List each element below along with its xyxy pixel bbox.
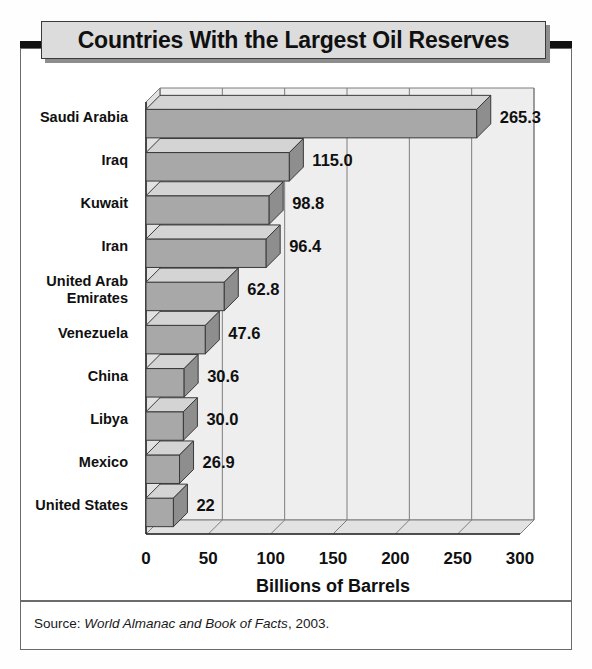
chart-title-bar: Countries With the Largest Oil Reserves bbox=[41, 21, 546, 59]
source-divider bbox=[20, 600, 572, 602]
page-title: Countries With the Largest Oil Reserves bbox=[78, 27, 510, 54]
chart-figure: Countries With the Largest Oil Reserves … bbox=[0, 0, 592, 669]
source-prefix: Source: bbox=[34, 616, 84, 631]
source-note: Source: World Almanac and Book of Facts,… bbox=[34, 616, 329, 631]
source-publication: World Almanac and Book of Facts bbox=[84, 616, 288, 631]
source-suffix: , 2003. bbox=[288, 616, 329, 631]
figure-frame bbox=[20, 48, 572, 650]
